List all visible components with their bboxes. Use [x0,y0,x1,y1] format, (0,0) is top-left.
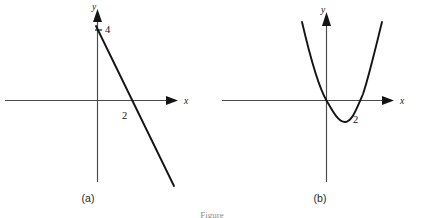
panel-a: x y 4 2 (a) [5,2,189,204]
panel-a-x-axis-arrowhead [166,96,178,105]
panel-a-line-curve [96,26,174,186]
figure-caption: Figure [200,210,224,218]
panel-a-x-axis-label: x [183,96,189,106]
panel-a-label-2: 2 [122,110,127,121]
panel-b-x-axis-label: x [399,96,405,106]
panel-a-caption: (a) [82,192,95,204]
panel-b-parabola-curve [302,22,382,122]
panel-b-caption: (b) [314,192,327,204]
figure-container: x y 4 2 (a) x y [0,0,424,218]
panel-b-label-2: 2 [353,114,358,125]
panel-b: x y 2 (b) [222,5,405,204]
panel-a-y-axis-label: y [91,2,97,12]
panel-b-x-axis-arrowhead [382,96,394,105]
figure-svg: x y 4 2 (a) x y [0,0,424,218]
panel-b-y-axis-label: y [320,5,326,15]
panel-a-label-4: 4 [105,24,111,35]
